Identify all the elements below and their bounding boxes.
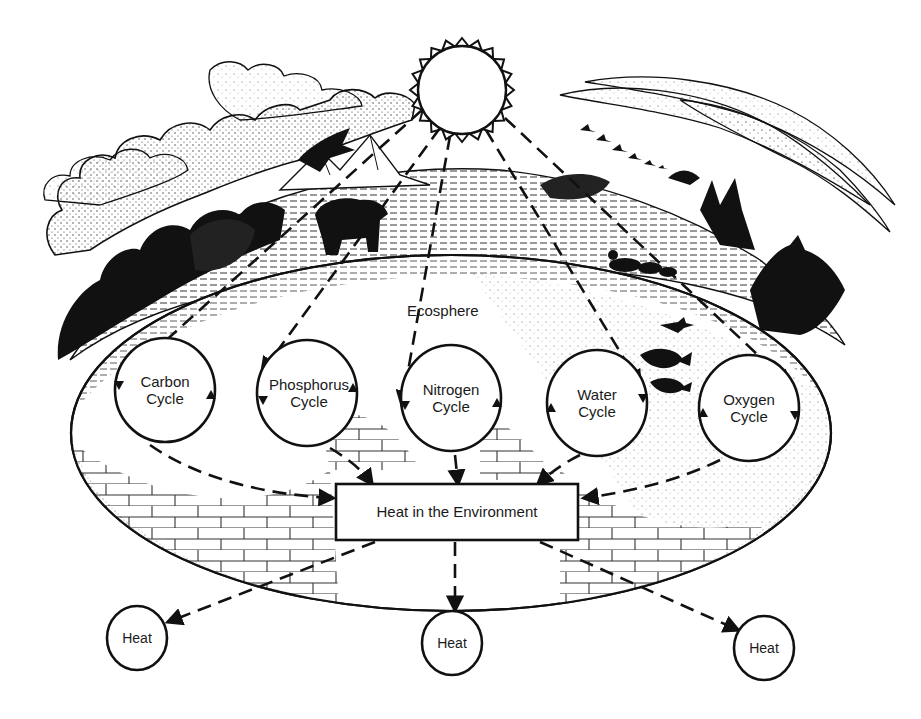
geese xyxy=(580,124,700,185)
cycle-suffix: Cycle xyxy=(577,403,616,420)
cycle-suffix: Cycle xyxy=(723,408,775,425)
phosphorus-cycle-label: Phosphorus Cycle xyxy=(269,376,349,411)
ecosphere-diagram xyxy=(0,0,921,719)
cycle-suffix: Cycle xyxy=(269,393,349,410)
nitrogen-cycle-label: Nitrogen Cycle xyxy=(423,381,480,416)
oxygen-cycle-label: Oxygen Cycle xyxy=(723,391,775,426)
heat-output-center-label: Heat xyxy=(437,635,467,651)
ecosphere-label: Ecosphere xyxy=(407,302,479,319)
heat-in-environment-label: Heat in the Environment xyxy=(377,503,538,520)
heat-output-right-label: Heat xyxy=(749,640,779,656)
cycle-suffix: Cycle xyxy=(423,398,480,415)
cycle-name: Water xyxy=(577,386,616,403)
heat-output-left-label: Heat xyxy=(122,630,152,646)
cycle-name: Oxygen xyxy=(723,391,775,408)
cycle-name: Nitrogen xyxy=(423,381,480,398)
water-cycle-label: Water Cycle xyxy=(577,386,616,421)
cycle-name: Phosphorus xyxy=(269,376,349,393)
cycle-name: Carbon xyxy=(140,373,189,390)
cycle-suffix: Cycle xyxy=(140,390,189,407)
sun-icon xyxy=(410,38,514,142)
carbon-cycle-label: Carbon Cycle xyxy=(140,373,189,408)
